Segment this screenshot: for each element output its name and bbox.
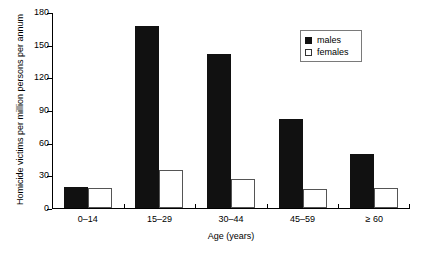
bar-females <box>88 188 112 208</box>
legend-swatch-females-icon <box>305 49 312 56</box>
x-axis-tick-label: 30–44 <box>196 214 266 225</box>
x-axis-tick-label: 45–59 <box>268 214 338 225</box>
bar-females <box>159 170 183 208</box>
x-axis-title: Age (years) <box>52 231 410 242</box>
legend-item-females: females <box>305 46 357 58</box>
bar-males <box>64 187 88 208</box>
legend: males females <box>300 30 362 62</box>
legend-label-females: females <box>317 47 349 58</box>
x-axis-tick-label: ≥ 60 <box>339 214 409 225</box>
bar-males <box>135 26 159 208</box>
x-axis-separator <box>267 204 268 209</box>
x-axis-line <box>52 208 410 209</box>
y-axis-tick-label: 180 <box>34 7 49 18</box>
x-axis-separator <box>124 204 125 209</box>
bar-males <box>350 154 374 208</box>
x-axis-tick-label: 15–29 <box>124 214 194 225</box>
y-axis-tick-label: 0 <box>44 203 49 214</box>
bar-females <box>303 189 327 208</box>
y-axis-tick-label: 150 <box>34 40 49 51</box>
legend-label-males: males <box>317 35 341 46</box>
x-axis-separator <box>195 204 196 209</box>
legend-item-males: males <box>305 34 357 46</box>
y-axis-tick-label: 30 <box>39 170 49 181</box>
y-axis-tick-label: 120 <box>34 72 49 83</box>
figure: Homicide victims per million persons per… <box>0 0 421 260</box>
bar-females <box>374 188 398 208</box>
y-axis-tick-label: 90 <box>39 105 49 116</box>
x-axis-tick-label: 0–14 <box>53 214 123 225</box>
x-axis-separator <box>338 204 339 209</box>
y-axis-title: Homicide victims per million persons per… <box>16 0 25 220</box>
y-axis-tick-label: 60 <box>39 138 49 149</box>
bar-females <box>231 179 255 208</box>
legend-swatch-males-icon <box>305 37 312 44</box>
x-axis-separator <box>409 204 410 209</box>
y-axis-line <box>52 13 53 209</box>
bar-males <box>207 54 231 208</box>
bar-males <box>279 119 303 208</box>
